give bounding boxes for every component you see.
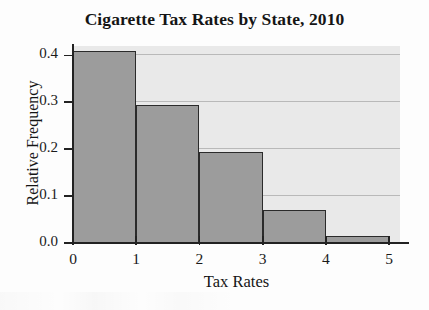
- histogram-bar: [136, 105, 199, 243]
- x-axis-tick-label: 1: [124, 250, 148, 268]
- x-axis-tick-label: 2: [187, 250, 211, 268]
- x-axis-tick: [135, 236, 137, 245]
- y-axis-tick: [64, 101, 73, 103]
- y-axis-tick: [64, 195, 73, 197]
- x-axis-tick: [262, 236, 264, 245]
- chart-title: Cigarette Tax Rates by State, 2010: [0, 9, 429, 30]
- histogram-figure: Cigarette Tax Rates by State, 2010 0.00.…: [0, 0, 429, 310]
- x-axis-tick-label: 0: [61, 250, 85, 268]
- scan-noise-artifact: [0, 292, 429, 310]
- x-axis-tick-label: 3: [251, 250, 275, 268]
- x-axis-tick: [388, 236, 390, 245]
- y-axis-line: [72, 44, 74, 244]
- plot-area: [73, 46, 400, 243]
- y-axis-label: Relative Frequency: [24, 48, 42, 238]
- histogram-bar: [73, 51, 136, 243]
- x-axis-tick: [72, 236, 74, 245]
- y-axis-tick: [64, 148, 73, 150]
- x-axis-tick: [325, 236, 327, 245]
- histogram-bar: [263, 210, 326, 243]
- histogram-bar: [199, 152, 262, 243]
- x-axis-tick-label: 5: [377, 250, 401, 268]
- x-axis-tick-label: 4: [314, 250, 338, 268]
- x-axis-tick: [199, 236, 201, 245]
- y-axis-tick: [64, 55, 73, 57]
- x-axis-label: Tax Rates: [73, 272, 400, 292]
- x-axis-line: [64, 242, 409, 244]
